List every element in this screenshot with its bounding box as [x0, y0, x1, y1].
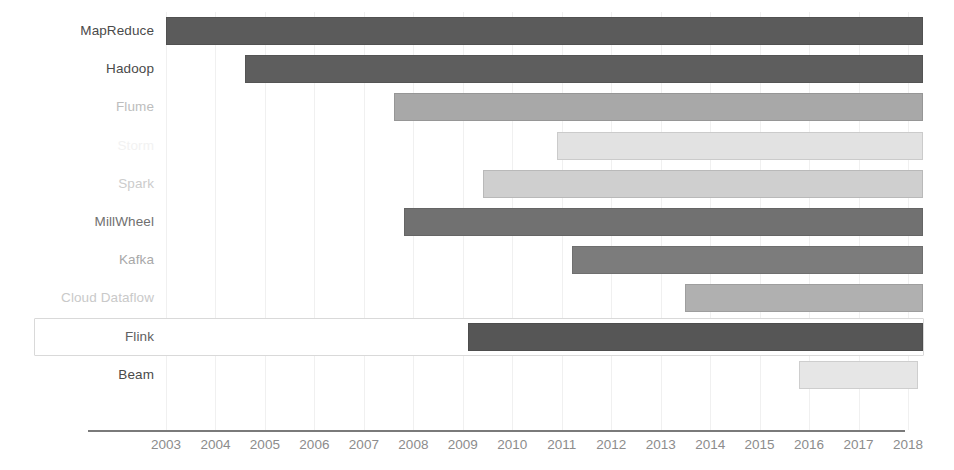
x-axis-line: [88, 430, 905, 432]
x-tick-2018: 2018: [878, 434, 938, 456]
timeline-chart: MapReduceHadoopFlumeStormSparkMillWheelK…: [0, 0, 954, 470]
row-label-flume: Flume: [0, 88, 154, 126]
timeline-row-storm[interactable]: Storm: [0, 127, 954, 165]
x-axis-tick-labels: 2003200420052006200720082009201020112012…: [0, 434, 954, 464]
row-label-cloud-dataflow: Cloud Dataflow: [0, 279, 154, 317]
timeline-row-beam[interactable]: Beam: [0, 356, 954, 394]
timeline-bar-spark[interactable]: [483, 170, 923, 198]
row-label-kafka: Kafka: [0, 241, 154, 279]
timeline-row-millwheel[interactable]: MillWheel: [0, 203, 954, 241]
row-label-mapreduce: MapReduce: [0, 12, 154, 50]
row-label-beam: Beam: [0, 356, 154, 394]
timeline-bar-storm[interactable]: [557, 132, 923, 160]
timeline-row-kafka[interactable]: Kafka: [0, 241, 954, 279]
timeline-bar-hadoop[interactable]: [245, 55, 923, 83]
timeline-row-hadoop[interactable]: Hadoop: [0, 50, 954, 88]
row-label-spark: Spark: [0, 165, 154, 203]
row-label-storm: Storm: [0, 127, 154, 165]
chart-rows: MapReduceHadoopFlumeStormSparkMillWheelK…: [0, 0, 954, 420]
timeline-bar-mapreduce[interactable]: [166, 17, 923, 45]
timeline-bar-kafka[interactable]: [572, 246, 923, 274]
timeline-bar-millwheel[interactable]: [404, 208, 923, 236]
timeline-row-cloud-dataflow[interactable]: Cloud Dataflow: [0, 279, 954, 317]
timeline-row-spark[interactable]: Spark: [0, 165, 954, 203]
timeline-bar-flume[interactable]: [394, 93, 923, 121]
row-label-millwheel: MillWheel: [0, 203, 154, 241]
timeline-row-flink[interactable]: Flink: [0, 318, 954, 356]
timeline-row-mapreduce[interactable]: MapReduce: [0, 12, 954, 50]
timeline-bar-cloud-dataflow[interactable]: [685, 284, 923, 312]
timeline-row-flume[interactable]: Flume: [0, 88, 954, 126]
timeline-bar-beam[interactable]: [799, 361, 918, 389]
timeline-bar-flink[interactable]: [468, 323, 923, 351]
row-label-flink: Flink: [0, 318, 154, 356]
row-label-hadoop: Hadoop: [0, 50, 154, 88]
